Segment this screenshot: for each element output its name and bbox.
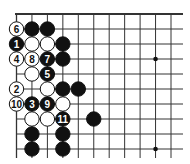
star-point-icon: [153, 147, 158, 152]
black-stone-icon: [25, 127, 39, 141]
black-stone-icon: [40, 22, 54, 36]
white-stone: [56, 97, 70, 111]
white-stone-icon: [25, 67, 39, 81]
white-stone: [40, 37, 54, 51]
black-stone: [71, 82, 85, 96]
black-stone-icon: [56, 82, 70, 96]
black-stone: [25, 127, 39, 141]
move-number-label: 5: [45, 69, 51, 80]
move-number-label: 6: [14, 24, 20, 35]
move-number-label: 3: [29, 99, 35, 110]
black-stone-move-11: 11: [56, 112, 70, 126]
black-stone: [56, 142, 70, 156]
white-stone: [40, 82, 54, 96]
move-number-label: 10: [11, 99, 23, 110]
white-stone-icon: [40, 82, 54, 96]
go-board: 6148752103911: [0, 0, 190, 164]
black-stone-move-3: 3: [25, 97, 39, 111]
white-stone-move-6: 6: [9, 22, 23, 36]
move-number-label: 8: [29, 54, 35, 65]
black-stone: [25, 142, 39, 156]
black-stone-icon: [25, 22, 39, 36]
white-stone-icon: [56, 97, 70, 111]
black-stone-icon: [71, 82, 85, 96]
move-number-label: 1: [14, 39, 20, 50]
black-stone-move-5: 5: [40, 67, 54, 81]
white-stone: [25, 112, 39, 126]
black-stone-move-1: 1: [9, 37, 23, 51]
grid-lines: [15, 14, 183, 158]
black-stone-icon: [25, 142, 39, 156]
white-stone: [40, 112, 54, 126]
black-stone: [25, 22, 39, 36]
star-point-icon: [153, 57, 158, 62]
white-stone-icon: [25, 37, 39, 51]
black-stone-icon: [56, 52, 70, 66]
white-stone: [25, 37, 39, 51]
black-stone-icon: [56, 37, 70, 51]
black-stone-move-7: 7: [40, 52, 54, 66]
white-stone-move-8: 8: [25, 52, 39, 66]
move-number-label: 7: [45, 54, 51, 65]
black-stone-icon: [56, 127, 70, 141]
white-stone-icon: [25, 112, 39, 126]
white-stone-icon: [40, 112, 54, 126]
black-stone: [56, 52, 70, 66]
move-number-label: 4: [14, 54, 20, 65]
black-stone-icon: [56, 142, 70, 156]
move-number-label: 2: [14, 84, 20, 95]
black-stone: [56, 82, 70, 96]
black-stone: [56, 127, 70, 141]
black-stone: [87, 112, 101, 126]
black-stone-icon: [87, 112, 101, 126]
white-stone: [25, 67, 39, 81]
black-stone-move-9: 9: [40, 97, 54, 111]
black-stone: [40, 22, 54, 36]
white-stone-move-10: 10: [9, 97, 23, 111]
white-stone-move-4: 4: [9, 52, 23, 66]
move-number-label: 9: [45, 99, 51, 110]
move-number-label: 11: [58, 114, 69, 125]
white-stone-move-2: 2: [9, 82, 23, 96]
white-stone-icon: [40, 37, 54, 51]
black-stone: [56, 37, 70, 51]
